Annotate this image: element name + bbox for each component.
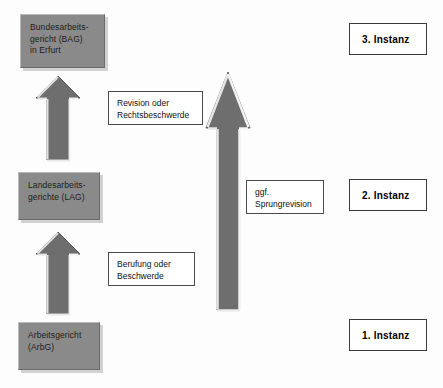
instanz-box-3: 3. Instanz [349,23,427,55]
label-berufung-line-1: Berufung oder [117,259,194,271]
label-box-sprungrevision: ggf. Sprungrevision [246,180,324,214]
court-bag-line-3: in Erfurt [30,45,104,57]
instanz-box-2: 2. Instanz [349,179,427,211]
court-arbg-line-2: (ArbG) [28,342,99,354]
label-revision-line-1: Revision oder [117,98,202,110]
court-box-bag: Bundesarbeits- gericht (BAG) in Erfurt [20,14,105,68]
court-lag-line-1: Landesarbeits- [28,180,99,192]
label-sprungrevision-line-2: Sprungrevision [255,199,323,211]
court-arbg-line-1: Arbeitsgericht [28,330,99,342]
instanz-box-1: 1. Instanz [349,319,427,351]
label-box-berufung: Berufung oder Beschwerde [108,252,195,286]
label-box-revision: Revision oder Rechtsbeschwerde [108,91,203,125]
court-box-lag: Landesarbeits- gerichte (LAG) [18,172,100,220]
court-bag-line-2: gericht (BAG) [30,34,104,46]
arrow-berufung-arbg-to-lag [28,226,88,318]
label-revision-line-2: Rechtsbeschwerde [117,110,202,122]
instanzenzug-diagram: Bundesarbeits- gericht (BAG) in Erfurt L… [0,0,443,388]
court-box-arbg: Arbeitsgericht (ArbG) [18,322,100,370]
court-lag-line-2: gerichte (LAG) [28,192,99,204]
label-sprungrevision-line-1: ggf. [255,187,323,199]
arrow-revision-lag-to-bag [28,70,88,166]
label-berufung-line-2: Beschwerde [117,271,194,283]
court-bag-line-1: Bundesarbeits- [30,22,104,34]
